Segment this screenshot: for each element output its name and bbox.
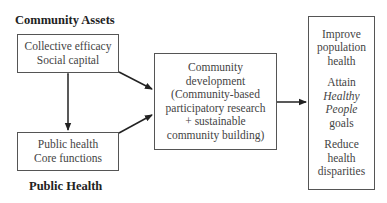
outcome-line: Improve	[317, 28, 366, 42]
outcome-line: Healthy	[323, 90, 359, 104]
community-assets-label: Community Assets	[15, 13, 115, 28]
outcomes-box: Improve population health Attain Healthy…	[308, 16, 375, 190]
outcome-line: Reduce	[318, 138, 365, 152]
development-line: + sustainable	[185, 115, 245, 129]
public-health-line: Public health	[38, 138, 98, 152]
development-line: participatory research	[166, 102, 266, 116]
outcome-line: population	[317, 41, 366, 55]
outcome-line: health	[318, 152, 365, 166]
outcome-reduce-disparities: Reduce health disparities	[318, 138, 365, 179]
development-line: (Community-based	[171, 88, 260, 102]
assets-line: Collective efficacy	[25, 40, 112, 54]
outcome-healthy-people: Attain Healthy People goals	[323, 76, 359, 130]
development-line: community building)	[167, 129, 264, 143]
assets-to-development-arrow	[119, 72, 152, 89]
outcome-line: goals	[323, 117, 359, 131]
outcome-line: People	[323, 103, 359, 117]
development-line: development	[186, 75, 245, 89]
public-health-label: Public Health	[29, 179, 102, 194]
community-development-box: Community development (Community-based p…	[154, 53, 277, 150]
assets-box: Collective efficacy Social capital	[17, 34, 119, 73]
assets-line: Social capital	[37, 54, 99, 68]
outcome-line: health	[317, 55, 366, 69]
public-health-line: Core functions	[34, 152, 102, 166]
outcome-improve-health: Improve population health	[317, 28, 366, 69]
outcome-line: Attain	[323, 76, 359, 90]
public-health-box: Public health Core functions	[17, 132, 119, 171]
publichealth-to-development-arrow	[119, 115, 152, 133]
development-line: Community	[188, 61, 243, 75]
outcome-line: disparities	[318, 165, 365, 179]
